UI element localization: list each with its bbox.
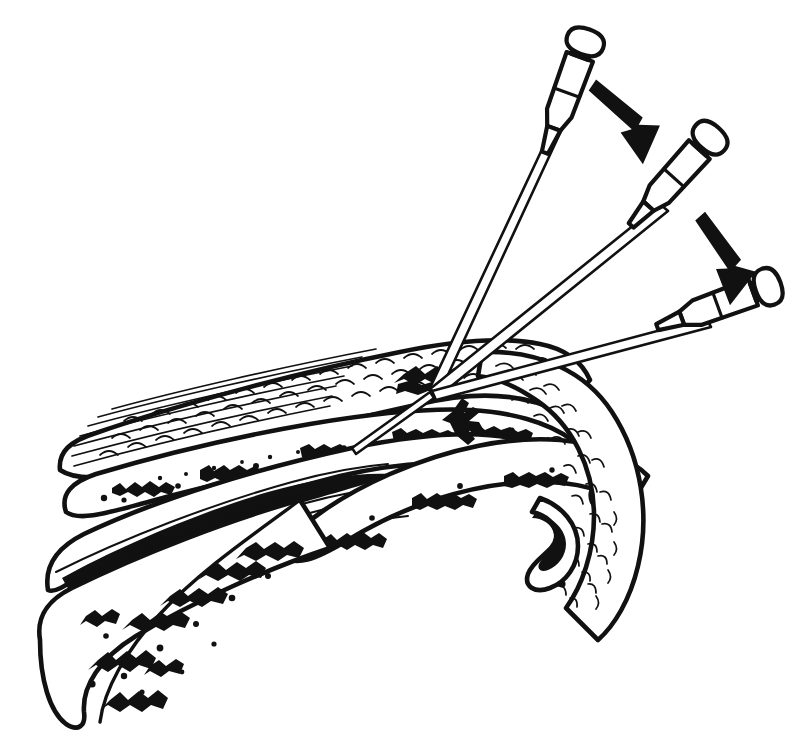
anatomy-group bbox=[39, 340, 648, 728]
arrow-1 bbox=[576, 72, 671, 164]
illustration-canvas bbox=[0, 0, 810, 750]
medical-illustration-figure: Cross-sectional line drawing: three prog… bbox=[0, 0, 810, 750]
